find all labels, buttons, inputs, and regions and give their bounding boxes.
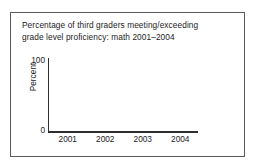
plot-area <box>49 58 198 131</box>
y-axis-tick-label-100: 100 <box>31 55 45 65</box>
x-axis-tick-labels: 2001 2002 2003 2004 <box>49 134 199 144</box>
y-axis-tick-label-0: 0 <box>40 125 45 135</box>
plot-wrapper: Percent 100 0 2001 2002 2003 2004 <box>11 13 246 158</box>
x-axis-tick-label-2004: 2004 <box>171 134 189 144</box>
chart-figure-frame: Percentage of third graders meeting/exce… <box>10 12 245 157</box>
x-axis-tick-label-2002: 2002 <box>96 134 114 144</box>
x-axis-tick-label-2003: 2003 <box>134 134 152 144</box>
x-axis-line <box>48 131 198 132</box>
x-axis-tick-label-2001: 2001 <box>59 134 77 144</box>
